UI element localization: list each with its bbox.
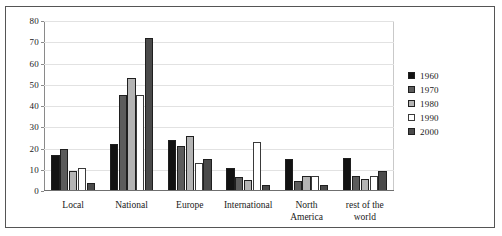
x-axis-category-label: National: [102, 199, 160, 211]
bar: [127, 78, 135, 191]
bar: [235, 177, 243, 191]
y-axis-tick-label: 70: [30, 37, 39, 47]
y-axis-tick-mark: [41, 191, 44, 192]
y-axis-tick-label: 80: [30, 16, 39, 26]
legend-item[interactable]: 1970: [408, 83, 472, 96]
legend-swatch-icon: [408, 72, 415, 79]
y-axis-tick-label: 30: [30, 122, 39, 132]
y-axis-tick-label: 20: [30, 143, 39, 153]
bar: [136, 95, 144, 191]
bar: [352, 176, 360, 191]
legend-label: 1960: [420, 71, 439, 81]
bar: [186, 136, 194, 191]
bar: [60, 149, 68, 192]
bar-group: [110, 21, 153, 191]
bar: [343, 158, 351, 191]
bar: [78, 168, 86, 191]
x-axis-category-label: Europe: [161, 199, 219, 211]
legend-label: 1970: [420, 85, 439, 95]
bar-group: [168, 21, 211, 191]
legend-item[interactable]: 1980: [408, 97, 472, 110]
bar: [51, 155, 59, 191]
bar: [195, 163, 203, 191]
bar: [226, 168, 234, 191]
legend-item[interactable]: 1990: [408, 111, 472, 124]
legend-label: 1990: [420, 113, 439, 123]
y-axis-tick-label: 50: [30, 80, 39, 90]
bar: [285, 159, 293, 191]
legend-label: 1980: [420, 99, 439, 109]
y-axis-tick-label: 0: [34, 186, 39, 196]
y-axis-tick-label: 60: [30, 58, 39, 68]
bar-series-container: [44, 21, 394, 191]
y-axis-tick-label: 10: [30, 165, 39, 175]
bar: [69, 171, 77, 191]
bar: [119, 95, 127, 191]
bar: [311, 176, 319, 191]
x-axis-line: [44, 190, 394, 191]
bar: [203, 159, 211, 191]
legend-swatch-icon: [408, 100, 415, 107]
bar-group: [285, 21, 328, 191]
bar: [253, 142, 261, 191]
x-axis-category-label: Local: [44, 199, 102, 211]
bar: [145, 38, 153, 191]
bar: [370, 176, 378, 191]
legend-item[interactable]: 1960: [408, 69, 472, 82]
legend-swatch-icon: [408, 128, 415, 135]
x-axis-category-label: rest of the world: [336, 199, 394, 223]
legend-item[interactable]: 2000: [408, 125, 472, 138]
legend: 19601970198019902000: [408, 69, 472, 139]
bar: [110, 144, 118, 191]
legend-swatch-icon: [408, 86, 415, 93]
bar-group: [226, 21, 269, 191]
x-axis-category-label: International: [219, 199, 277, 211]
bar: [177, 146, 185, 191]
legend-label: 2000: [420, 127, 439, 137]
y-axis-tick-label: 40: [30, 101, 39, 111]
legend-swatch-icon: [408, 114, 415, 121]
chart-frame: 01020304050607080 LocalNationalEuropeInt…: [5, 6, 495, 228]
bar: [168, 140, 176, 191]
x-axis-category-label: North America: [277, 199, 335, 223]
bar-group: [343, 21, 386, 191]
plot-area: 01020304050607080 LocalNationalEuropeInt…: [44, 21, 394, 191]
bar-group: [51, 21, 94, 191]
bar: [378, 171, 386, 191]
bar: [302, 176, 310, 191]
